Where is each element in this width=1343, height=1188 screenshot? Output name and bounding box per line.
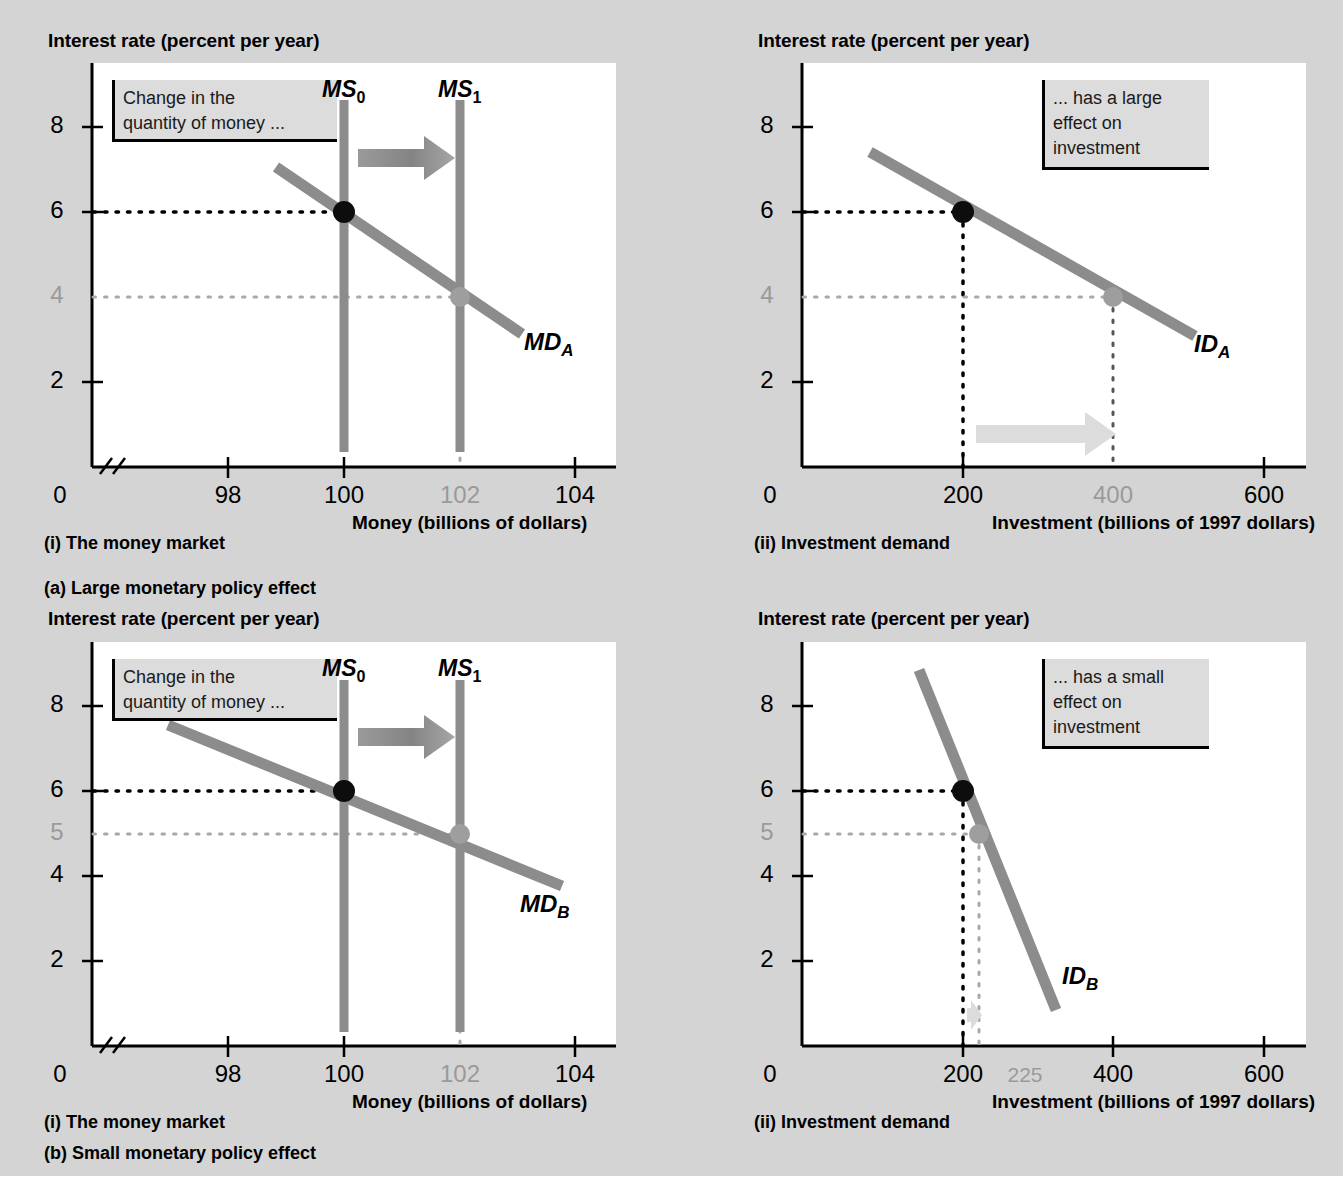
panel-b-ii: Interest rate (percent per year) ... has… — [670, 590, 1343, 1176]
x-tick-label-100-a-i: 100 — [310, 481, 378, 509]
x-tick-label-100-b-i: 100 — [310, 1060, 378, 1088]
x-axis-title-a-ii: Investment (billions of 1997 dollars) — [992, 512, 1315, 534]
x-tick-label-104-a-i: 104 — [541, 481, 609, 509]
x-tick-label-0-b-i: 0 — [43, 1060, 77, 1088]
x-tick-label-104-b-i: 104 — [541, 1060, 609, 1088]
equilibrium-dot-b-i-new — [450, 824, 470, 844]
x-tick-label-0-b-ii: 0 — [753, 1060, 787, 1088]
y-tick-label-8-b-i: 8 — [40, 690, 74, 718]
x-tick-label-200-b-ii: 200 — [929, 1060, 997, 1088]
ms0-label-b-i: MS0 — [322, 655, 365, 686]
y-tick-label-4-a-i: 4 — [40, 281, 74, 309]
y-tick-label-6-a-ii: 6 — [750, 196, 784, 224]
shift-arrow-b-i — [358, 715, 455, 759]
shift-arrow-b-ii — [967, 1000, 982, 1030]
id-b-label: IDB — [1062, 962, 1098, 995]
shift-arrow-a-ii — [976, 412, 1116, 456]
x-tick-label-400-a-ii: 400 — [1079, 481, 1147, 509]
y-tick-label-6-b-i: 6 — [40, 775, 74, 803]
y-tick-label-2-b-ii: 2 — [750, 945, 784, 973]
equilibrium-dot-b-ii-initial — [952, 780, 974, 802]
y-tick-label-4-b-i: 4 — [40, 860, 74, 888]
figure-root: Interest rate (percent per year) — [0, 0, 1343, 1188]
md-a-label: MDA — [524, 328, 574, 361]
equilibrium-dot-b-ii-new — [969, 824, 989, 844]
x-axis-title-a-i: Money (billions of dollars) — [352, 512, 587, 534]
caption-b: (b) Small monetary policy effect — [44, 1143, 316, 1164]
equilibrium-dot-a-i-initial — [333, 201, 355, 223]
y-tick-label-2-a-i: 2 — [40, 366, 74, 394]
md-b-curve — [168, 725, 562, 886]
equilibrium-dot-a-ii-initial — [952, 201, 974, 223]
id-a-curve — [870, 152, 1195, 336]
callout-b-ii: ... has a small effect on investment — [1042, 659, 1209, 749]
y-tick-label-8-a-i: 8 — [40, 111, 74, 139]
x-tick-label-225-b-ii: 225 — [995, 1063, 1055, 1087]
md-b-label: MDB — [520, 890, 570, 923]
subcaption-b-i: (i) The money market — [44, 1112, 225, 1133]
y-tick-label-4-b-ii: 4 — [750, 860, 784, 888]
callout-b-i: Change in the quantity of money ... — [112, 659, 337, 721]
y-tick-label-4-a-ii: 4 — [750, 281, 784, 309]
x-tick-label-200-a-ii: 200 — [929, 481, 997, 509]
x-axis-title-b-ii: Investment (billions of 1997 dollars) — [992, 1091, 1315, 1113]
y-tick-label-8-b-ii: 8 — [750, 690, 784, 718]
x-tick-label-600-a-ii: 600 — [1230, 481, 1298, 509]
y-tick-label-2-a-ii: 2 — [750, 366, 784, 394]
x-tick-label-400-b-ii: 400 — [1079, 1060, 1147, 1088]
id-b-curve — [919, 670, 1056, 1010]
y-tick-label-2-b-i: 2 — [40, 945, 74, 973]
y-tick-label-6-a-i: 6 — [40, 196, 74, 224]
subcaption-a-ii: (ii) Investment demand — [754, 533, 950, 554]
x-axis-title-b-i: Money (billions of dollars) — [352, 1091, 587, 1113]
callout-a-ii: ... has a large effect on investment — [1042, 80, 1209, 170]
equilibrium-dot-a-i-new — [450, 287, 470, 307]
ms1-label-a-i: MS1 — [438, 76, 481, 107]
subcaption-b-ii: (ii) Investment demand — [754, 1112, 950, 1133]
callout-a-i: Change in the quantity of money ... — [112, 80, 337, 142]
panel-a-i: Interest rate (percent per year) — [0, 0, 670, 590]
y-tick-label-5-b-i: 5 — [40, 818, 74, 846]
panel-b-i: Interest rate (percent per year) — [0, 590, 670, 1176]
ms1-label-b-i: MS1 — [438, 655, 481, 686]
x-tick-label-98-a-i: 98 — [200, 481, 256, 509]
page-bottom-margin — [0, 1176, 1343, 1188]
ms0-label-a-i: MS0 — [322, 76, 365, 107]
x-tick-label-0-a-i: 0 — [43, 481, 77, 509]
shift-arrow-a-i — [358, 136, 455, 180]
panel-a-ii: Interest rate (percent per year) ... has… — [670, 0, 1343, 590]
md-a-curve — [276, 167, 522, 334]
id-a-label: IDA — [1194, 330, 1230, 363]
x-tick-label-0-a-ii: 0 — [753, 481, 787, 509]
equilibrium-dot-b-i-initial — [333, 780, 355, 802]
y-tick-label-5-b-ii: 5 — [750, 818, 784, 846]
x-tick-label-600-b-ii: 600 — [1230, 1060, 1298, 1088]
x-tick-label-98-b-i: 98 — [200, 1060, 256, 1088]
subcaption-a-i: (i) The money market — [44, 533, 225, 554]
x-tick-label-102-b-i: 102 — [426, 1060, 494, 1088]
x-tick-label-102-a-i: 102 — [426, 481, 494, 509]
equilibrium-dot-a-ii-new — [1103, 287, 1123, 307]
y-tick-label-6-b-ii: 6 — [750, 775, 784, 803]
y-tick-label-8-a-ii: 8 — [750, 111, 784, 139]
